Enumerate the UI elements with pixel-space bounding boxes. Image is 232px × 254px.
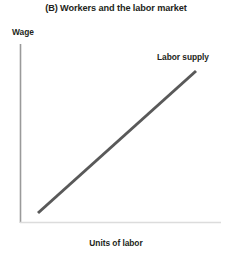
figure-panel-b: (B) Workers and the labor market Wage La… xyxy=(0,0,232,254)
labor-supply-line xyxy=(38,71,196,213)
plot-area xyxy=(0,0,232,254)
labor-supply-annotation: Labor supply xyxy=(157,52,209,62)
x-axis-label: Units of labor xyxy=(0,238,232,248)
